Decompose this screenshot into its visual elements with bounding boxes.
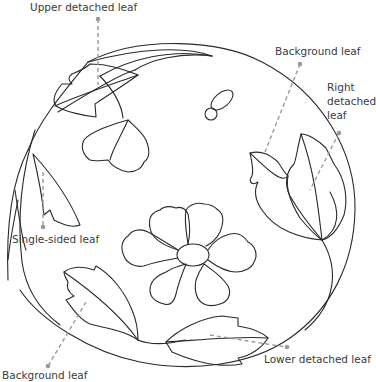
upper-detached-leaf bbox=[54, 64, 138, 117]
label-background-leaf-top: Background leaf bbox=[275, 44, 361, 58]
label-single-sided-leaf: Single-sided leaf bbox=[12, 232, 99, 246]
callout-right-detached-leaf bbox=[310, 133, 339, 190]
callout-lower-detached-leaf bbox=[210, 335, 286, 347]
outer-circle-frame bbox=[8, 44, 355, 367]
callout-background-leaf-bottom bbox=[48, 302, 86, 366]
label-lower-detached-leaf: Lower detached leaf bbox=[264, 352, 371, 366]
upper-bud bbox=[82, 120, 148, 172]
central-flower bbox=[122, 203, 256, 305]
seed-pod bbox=[205, 86, 236, 120]
callouts bbox=[41, 17, 342, 369]
label-right-detached-leaf: Right detached leaf bbox=[327, 80, 376, 122]
callout-background-leaf-top bbox=[265, 64, 300, 152]
label-upper-detached-leaf: Upper detached leaf bbox=[30, 0, 137, 14]
label-background-leaf-bottom: Background leaf bbox=[2, 368, 88, 382]
lower-detached-leaf bbox=[166, 316, 268, 365]
right-detached-leaf bbox=[287, 134, 346, 240]
